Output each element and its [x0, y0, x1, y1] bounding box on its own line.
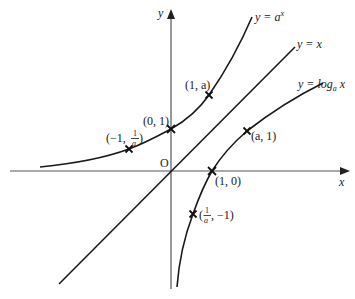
logarithm-curve	[177, 83, 323, 287]
exponential-curve	[40, 17, 252, 167]
x-axis-label: x	[338, 175, 345, 189]
svg-text:, −1): , −1)	[211, 208, 234, 222]
svg-text:1: 1	[205, 206, 209, 215]
point-label-1-0: (1, 0)	[215, 174, 241, 188]
exponential-log-graph: x y O	[0, 0, 355, 299]
point-label-1-a: (1, a)	[185, 78, 210, 92]
y-axis-label: y	[157, 6, 164, 20]
x-axis-arrow-icon	[340, 167, 350, 175]
point-label-a-1: (a, 1)	[251, 129, 276, 143]
cross-icon-1-a	[206, 92, 213, 99]
exponential-curve-label: y = ax	[254, 9, 284, 24]
svg-text:(−1,: (−1,	[106, 131, 126, 145]
point-label-inv-a-minus1: ( 1 a , −1)	[199, 206, 234, 225]
identity-line	[59, 47, 295, 284]
y-axis-arrow-icon	[167, 9, 175, 19]
logarithm-curve-label: y = loga x	[297, 77, 346, 93]
svg-text:(: (	[199, 208, 203, 222]
svg-text:): )	[139, 131, 143, 145]
cross-icon-a-1	[244, 128, 251, 135]
svg-text:a: a	[132, 139, 136, 148]
svg-text:1: 1	[133, 129, 137, 138]
svg-text:a: a	[204, 216, 208, 225]
cross-icon-inv-a-minus1	[190, 211, 197, 218]
origin-label: O	[160, 156, 169, 170]
identity-line-label: y = x	[296, 37, 322, 51]
point-label-0-1: (0, 1)	[143, 114, 169, 128]
